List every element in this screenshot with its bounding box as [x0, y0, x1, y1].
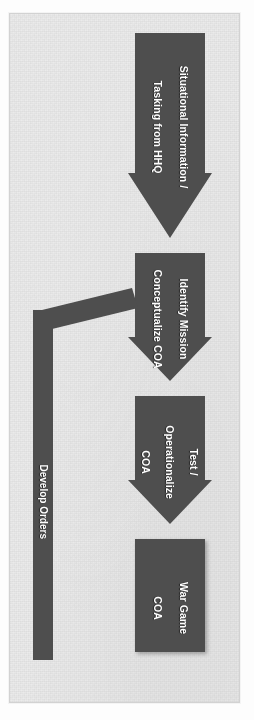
node-situational-information[interactable]: Situational Information / Tasking from H…	[128, 33, 212, 238]
block-arrow-shape	[128, 33, 212, 238]
block-arrow-shape	[128, 253, 212, 381]
flowchart-page: Situational Information / Tasking from H…	[0, 0, 254, 720]
block-arrow-shape	[128, 396, 212, 524]
node-test-operationalize[interactable]: Test / Operationalize COA	[128, 396, 212, 524]
connector-label-develop-orders: Develop Orders	[38, 465, 49, 539]
connector-develop-orders[interactable]: Develop Orders	[28, 288, 138, 663]
node-label-war-game: War Game COA	[138, 557, 203, 634]
diagram-canvas: Situational Information / Tasking from H…	[0, 0, 254, 720]
node-war-game[interactable]: War Game COA	[135, 539, 205, 652]
label-line-2: COA	[152, 596, 164, 620]
label-line-1: War Game	[178, 581, 190, 633]
node-identify-mission[interactable]: Identify Mission Conceptualize COA	[128, 253, 212, 381]
